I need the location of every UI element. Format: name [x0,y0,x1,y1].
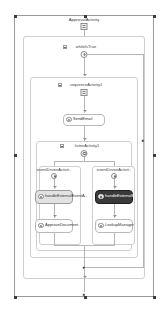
listen-expander-toggle[interactable] [60,144,64,148]
listen-icon [81,150,88,157]
resize-handle-bottom-left[interactable] [14,296,17,299]
arrow-down-icon [83,276,87,278]
activity-icon [38,223,44,229]
send-email-activity-node[interactable]: SendEmail [63,114,105,126]
handle-external-event-node-left[interactable]: handleExternalEventA.. [35,190,73,204]
activity-icon [38,194,44,200]
lookup-manager-node[interactable]: LookupManager [95,219,133,233]
resize-handle-middle-left[interactable] [14,154,17,157]
sequence-activity-label: sequenceActivity1 [70,82,102,87]
resize-handle-top-left[interactable] [14,15,17,18]
approve-document-label: ApproveDocument [45,223,78,227]
loopback-top-segment [86,54,144,55]
resize-handle-middle-right[interactable] [153,154,156,157]
event-driven-branch-left[interactable] [39,166,81,245]
activity-icon [98,194,104,200]
connector-branch-left-exit [54,233,55,246]
root-activity-label: ApprovalActivity [69,17,100,22]
activity-icon [98,223,104,229]
workflow-end-marker [83,293,85,295]
sequence-icon [81,89,88,96]
handle-external-event-left-label: handleExternalEventA.. [45,194,87,198]
loopback-bottom-segment [84,267,144,268]
listen-activity-label: listenActivity1 [75,143,99,148]
arrow-down-icon [83,138,87,140]
arrow-down-icon [53,215,57,217]
lookup-manager-label: LookupManager [105,223,134,227]
connector-join-to-sequence-exit [84,245,85,258]
while-expander-toggle[interactable] [63,45,67,49]
approve-document-node[interactable]: ApproveDocument [35,219,73,233]
sequence-expander-toggle[interactable] [58,83,62,87]
arrow-down-icon [113,215,117,217]
loopback-right-segment [143,54,144,268]
arrow-down-icon [83,74,87,76]
handle-external-event-node-right[interactable]: handleExternalE.. [95,190,133,204]
connector-root-exit [84,279,85,292]
connector-branch-right-exit [114,233,115,246]
event-driven-left-label: eventDrivenActivit.. [37,167,71,172]
workflow-designer-canvas[interactable]: ApprovalActivity whileIsTrue sequenceAct… [0,0,168,317]
while-activity-label: whileIsTrue [76,44,96,49]
event-driven-right-label: eventDrivenActivit.. [97,167,131,172]
loopback-midpoint-marker[interactable] [142,140,144,142]
activity-icon [66,117,72,123]
resize-handle-top-right[interactable] [153,15,156,18]
arrow-down-icon [53,186,57,188]
resize-handle-bottom-right[interactable] [153,296,156,299]
handle-external-event-right-label: handleExternalE.. [105,194,137,198]
arrow-down-icon [83,110,87,112]
sequence-icon [81,23,88,30]
resize-handle-bottom-center[interactable] [84,296,87,299]
send-email-label: SendEmail [73,117,92,121]
arrow-down-icon [113,186,117,188]
connector-listen-split-bar [54,161,115,162]
